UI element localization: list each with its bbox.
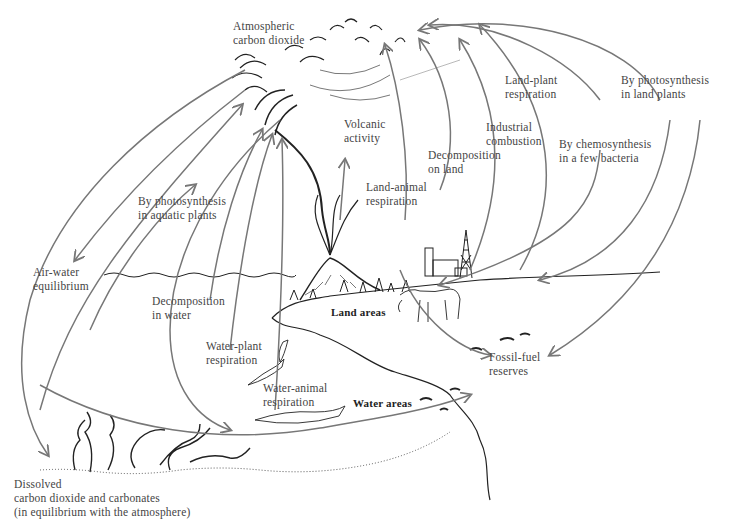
label-photosynthesis-aquatic: By photosynthesis in aquatic plants [138,194,226,222]
label-atmospheric-co2: Atmospheric carbon dioxide [233,19,304,47]
label-dissolved-co2: Dissolved carbon dioxide and carbonates … [14,477,190,519]
label-water-animal-respiration: Water-animal respiration [263,381,327,409]
arrow-atmosphere-to-dissolved [22,70,245,455]
arrow-water-plant [230,135,272,350]
label-industrial-combustion: Industrial combustion [486,120,542,148]
label-air-water-equilibrium: Air-water equilibrium [33,265,89,293]
label-decomposition-water: Decomposition in water [152,294,225,322]
carbon-cycle-diagram: Atmospheric carbon dioxide Volcanic acti… [0,0,731,529]
label-decomposition-land: Decomposition on land [428,148,501,176]
volcano [275,130,380,300]
water-surface [104,273,296,277]
label-land-animal-respiration: Land-animal respiration [366,180,427,208]
label-land-plant-respiration: Land-plant respiration [505,73,557,101]
label-water-areas: Water areas [353,396,412,410]
seaweed [40,412,450,474]
cycle-arrows [22,24,700,455]
label-land-areas: Land areas [331,305,386,319]
label-volcanic-activity: Volcanic activity [344,117,386,145]
industrial-buildings [425,230,472,278]
arrow-volcanic [340,160,345,220]
arrow-atmosphere-to-airwater [75,90,245,260]
label-chemosynthesis: By chemosynthesis in a few bacteria [559,137,652,165]
label-photosynthesis-land: By photosynthesis in land plants [621,73,709,101]
label-water-plant-respiration: Water-plant respiration [206,339,262,367]
label-fossil-fuel-reserves: Fossil-fuel reserves [489,350,540,378]
